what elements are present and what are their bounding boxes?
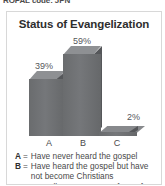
x-axis-labels: A B C: [7, 138, 161, 150]
x-tick-a: A: [39, 138, 59, 148]
screenshot-root: ROPAL code: JPN Status of Evangelization…: [0, 0, 165, 186]
legend-eq-c: =: [23, 182, 28, 185]
legend-item-a: A = Have never heard the gospel: [15, 151, 159, 161]
legend-key-c: C: [15, 182, 21, 185]
legend-eq-b: =: [23, 161, 28, 171]
chart-panel: Status of Evangelization 39% 59%: [6, 11, 162, 185]
chart-title: Status of Evangelization: [7, 18, 161, 30]
ropal-code-header: ROPAL code: JPN: [0, 0, 165, 9]
legend-item-b: B = Have heard the gospel but have not b…: [15, 161, 159, 181]
legend-eq-a: =: [23, 151, 28, 161]
x-tick-c: C: [107, 138, 127, 148]
bar-a-value-label: 39%: [35, 61, 53, 71]
x-tick-b: B: [73, 138, 93, 148]
plot-area: 39% 59% 2%: [7, 36, 161, 136]
legend-key-b: B: [15, 161, 21, 171]
bar-c: 2%: [99, 36, 155, 136]
bar-c-value-label: 2%: [127, 112, 140, 122]
chart-legend: A = Have never heard the gospel B = Have…: [15, 151, 159, 185]
legend-text-a: Have never heard the gospel: [31, 151, 159, 161]
ropal-code-label: ROPAL code:: [3, 0, 53, 5]
bar-b-front-face: [63, 54, 101, 136]
ropal-code-line: ROPAL code: JPN: [3, 0, 70, 5]
legend-text-c: Are adherents to some form of Christiani…: [31, 182, 159, 185]
bar-b-value-label: 59%: [73, 36, 91, 46]
legend-text-b: Have heard the gospel but have not becom…: [31, 161, 159, 181]
bar-a-front-face: [29, 79, 65, 136]
legend-key-a: A: [15, 151, 21, 161]
legend-item-c: C = Are adherents to some form of Christ…: [15, 182, 159, 185]
bar-c-front-face: [99, 132, 137, 136]
ropal-code-value: JPN: [55, 0, 70, 5]
